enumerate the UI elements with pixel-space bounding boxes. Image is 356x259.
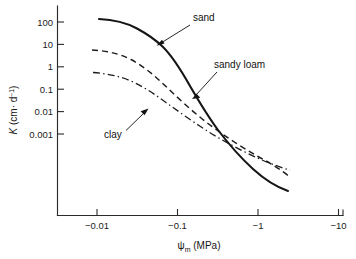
figure-container: 100 10 1 0.1 0.01 0.001 −0.01 −0.1 −1 −1… xyxy=(0,0,356,259)
svg-text:ψm (MPa): ψm (MPa) xyxy=(178,240,221,253)
x-axis-title-symbol: ψ xyxy=(178,240,185,251)
annotation-label-sandy-loam: sandy loam xyxy=(214,59,265,70)
x-tick-label--0.01: −0.01 xyxy=(85,220,109,231)
y-tick-label-0.1: 0.1 xyxy=(40,84,53,95)
y-tick-label-0.01: 0.01 xyxy=(35,106,54,117)
y-axis-title-unit-open: (cm· d xyxy=(8,97,19,128)
x-axis-title: ψm (MPa) xyxy=(178,240,221,253)
y-tick-label-0.001: 0.001 xyxy=(29,129,53,140)
x-tick-label--10: −10 xyxy=(330,220,346,231)
x-tick-label--0.1: −0.1 xyxy=(168,220,187,231)
x-tick-label--1: −1 xyxy=(253,220,264,231)
y-axis-title-unit-close: ) xyxy=(8,86,19,89)
annotation-label-clay: clay xyxy=(104,129,122,140)
x-axis-title-unit: (MPa) xyxy=(190,240,220,251)
y-tick-label-100: 100 xyxy=(37,17,53,28)
y-tick-label-10: 10 xyxy=(42,39,53,50)
annotation-label-sand: sand xyxy=(193,12,215,23)
soil-hydraulic-conductivity-chart: 100 10 1 0.1 0.01 0.001 −0.01 −0.1 −1 −1… xyxy=(0,0,356,259)
y-tick-label-1: 1 xyxy=(48,61,53,72)
